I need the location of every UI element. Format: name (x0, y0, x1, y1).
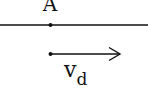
velocity-arrow (49, 48, 121, 61)
point-a-label: A (42, 0, 58, 16)
diagram-canvas: A vd (0, 0, 148, 97)
velocity-label: vd (63, 57, 87, 89)
velocity-subscript: d (76, 69, 87, 89)
velocity-symbol: v (63, 57, 77, 82)
point-a-dot (49, 23, 53, 27)
